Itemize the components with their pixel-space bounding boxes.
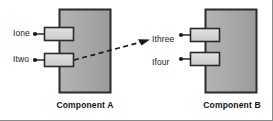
component-a-caption: Component A [33,100,137,111]
component-a-port-ione-knob [33,32,37,36]
component-a-port-itwo-knob [33,58,37,62]
component-b-port-ithree-rect[interactable] [191,29,220,42]
component-a-port-ione-label: Ione [13,28,30,38]
component-b-port-ithree-knob [179,33,183,37]
component-a-port-itwo-rect[interactable] [45,54,74,67]
component-b-port-ifour-rect[interactable] [191,53,220,66]
component-b-caption: Component B [180,100,273,111]
component-a-port-ione-rect[interactable] [45,28,74,41]
component-a-port-itwo-label: Itwo [13,54,29,64]
component-b-body[interactable] [206,10,257,93]
component-diagram-canvas: Ione Itwo Ithree Ifour Component A Compo… [0,0,273,121]
component-b-port-ifour-label: Ifour [152,57,170,67]
dependency-arrowhead-icon [138,39,150,45]
component-b-port-ifour-knob [179,57,183,61]
component-a-body[interactable] [60,10,111,93]
component-b-port-ithree-label: Ithree [152,34,174,44]
